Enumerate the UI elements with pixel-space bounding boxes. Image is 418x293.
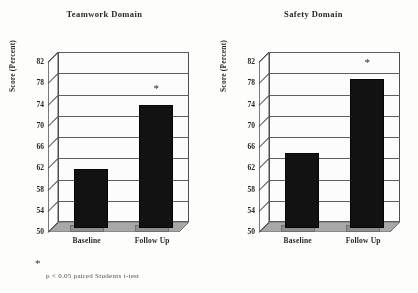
y-axis-tickmark — [259, 180, 270, 191]
figure-bar-charts: Teamwork Domain 505458626670747882 * Bas… — [0, 0, 418, 293]
significance-star: * — [154, 83, 160, 94]
y-axis-title-teamwork: Score (Percent) — [8, 40, 17, 92]
plot-area-teamwork: 505458626670747882 * BaselineFollow Up — [48, 52, 189, 232]
y-axis-tick-label: 70 — [248, 122, 256, 130]
y-axis-tick-label: 58 — [248, 186, 256, 194]
bar-baseline — [285, 153, 319, 227]
gridline — [269, 73, 400, 74]
y-axis-tick-label: 50 — [37, 228, 45, 236]
y-axis-tickmark — [259, 52, 270, 63]
y-axis-tickmark — [259, 222, 270, 233]
significance-star: * — [365, 57, 371, 68]
y-axis-tickmark — [48, 201, 59, 212]
y-axis-tick-label: 70 — [37, 122, 45, 130]
chart-panel-teamwork: Teamwork Domain 505458626670747882 * Bas… — [0, 0, 209, 260]
y-axis-tick-label: 54 — [37, 207, 45, 215]
y-axis-tick-label: 62 — [248, 165, 256, 173]
bar-follow-up — [350, 79, 384, 228]
y-axis-tickmark — [48, 116, 59, 127]
y-axis-title-safety: Score (Percent) — [219, 40, 228, 92]
y-axis-tick-label: 78 — [37, 80, 45, 88]
y-axis-tickmark — [48, 52, 59, 63]
y-axis-tickmark — [259, 137, 270, 148]
y-axis-tickmark — [48, 222, 59, 233]
figure-footnote: * p < 0.05 paired Students t-test — [0, 258, 418, 293]
y-axis-tickmark — [259, 116, 270, 127]
y-axis-tickmark — [48, 158, 59, 169]
bar-follow-up — [139, 105, 173, 227]
gridline — [58, 73, 189, 74]
x-axis-label: Follow Up — [346, 236, 381, 245]
y-axis-tick-label: 78 — [248, 80, 256, 88]
y-axis-tick-label: 66 — [248, 143, 256, 151]
chart-panel-safety: Safety Domain 505458626670747882 * Basel… — [209, 0, 418, 260]
gridline — [58, 52, 189, 53]
y-axis-tickmark — [259, 95, 270, 106]
y-axis-tickmark — [48, 137, 59, 148]
y-axis-tickmark — [48, 95, 59, 106]
plot-area-safety: 505458626670747882 * BaselineFollow Up — [259, 52, 400, 232]
y-axis-tick-label: 50 — [248, 228, 256, 236]
y-axis-tickmark — [48, 73, 59, 84]
bar-baseline — [74, 169, 108, 227]
y-axis-tickmark — [48, 180, 59, 191]
gridline — [58, 95, 189, 96]
y-axis-tickmark — [259, 158, 270, 169]
footnote-significance-text: p < 0.05 paired Students t-test — [46, 272, 139, 280]
y-axis-tick-label: 74 — [248, 101, 256, 109]
y-axis-tick-label: 54 — [248, 207, 256, 215]
chart-title-safety: Safety Domain — [209, 9, 418, 19]
y-axis-tickmark — [259, 73, 270, 84]
gridline — [269, 52, 400, 53]
y-axis-tickmark — [259, 201, 270, 212]
y-axis-tick-label: 82 — [37, 58, 45, 66]
x-axis-label: Baseline — [284, 236, 312, 245]
y-axis-tick-label: 58 — [37, 186, 45, 194]
y-axis-tick-label: 74 — [37, 101, 45, 109]
y-axis-tick-label: 62 — [37, 165, 45, 173]
footnote-star-marker: * — [35, 258, 41, 269]
chart-title-teamwork: Teamwork Domain — [0, 9, 209, 19]
y-axis-tick-label: 66 — [37, 143, 45, 151]
x-axis-label: Follow Up — [135, 236, 170, 245]
x-axis-label: Baseline — [73, 236, 101, 245]
y-axis-tick-label: 82 — [248, 58, 256, 66]
